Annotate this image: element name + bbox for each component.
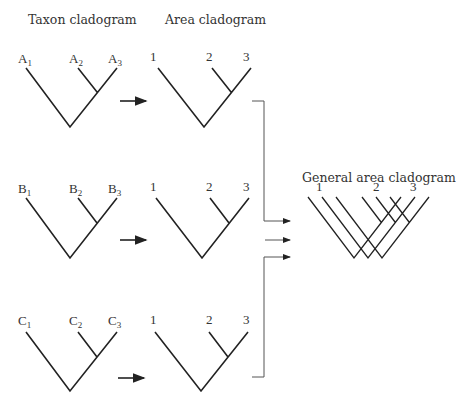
general-label-1: 1 (316, 179, 323, 194)
taxon-tree-a: A1 A2 A3 (18, 51, 122, 127)
taxon-tree-b: B1 B2 B3 (18, 181, 122, 258)
area-tree-c: 1 2 3 (150, 312, 250, 391)
area-label-3: 3 (243, 49, 250, 64)
area-label-2: 2 (206, 179, 213, 194)
label-a2: A2 (69, 51, 83, 68)
area-label-2: 2 (206, 312, 213, 327)
area-label-1: 1 (150, 312, 157, 327)
label-c2: C2 (69, 313, 82, 330)
label-a1: A1 (18, 51, 32, 68)
taxon-tree-c: C1 C2 C3 (18, 313, 122, 391)
label-b2: B2 (69, 181, 82, 198)
label-b1: B1 (18, 181, 31, 198)
area-label-3: 3 (243, 312, 250, 327)
area-label-1: 1 (150, 49, 157, 64)
area-label-2: 2 (206, 49, 213, 64)
label-b3: B3 (108, 181, 122, 198)
area-tree-a: 1 2 3 (150, 49, 251, 127)
label-c1: C1 (18, 313, 31, 330)
label-a3: A3 (108, 51, 122, 68)
general-label-2: 2 (373, 179, 380, 194)
connector-brackets (252, 101, 290, 377)
area-label-3: 3 (243, 179, 250, 194)
general-area-tree: 1 2 3 (308, 179, 429, 258)
label-c3: C3 (108, 313, 122, 330)
area-label-1: 1 (150, 179, 157, 194)
general-label-3: 3 (410, 179, 417, 194)
area-tree-b: 1 2 3 (150, 179, 250, 258)
